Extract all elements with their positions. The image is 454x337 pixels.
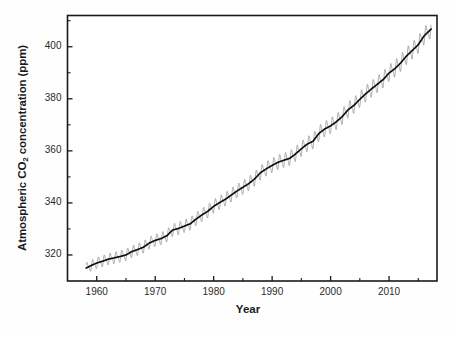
chart-figure: Atmospheric CO2 concentration (ppm) Year… bbox=[0, 0, 454, 337]
plot-background bbox=[68, 16, 438, 282]
plot-area bbox=[0, 0, 454, 337]
